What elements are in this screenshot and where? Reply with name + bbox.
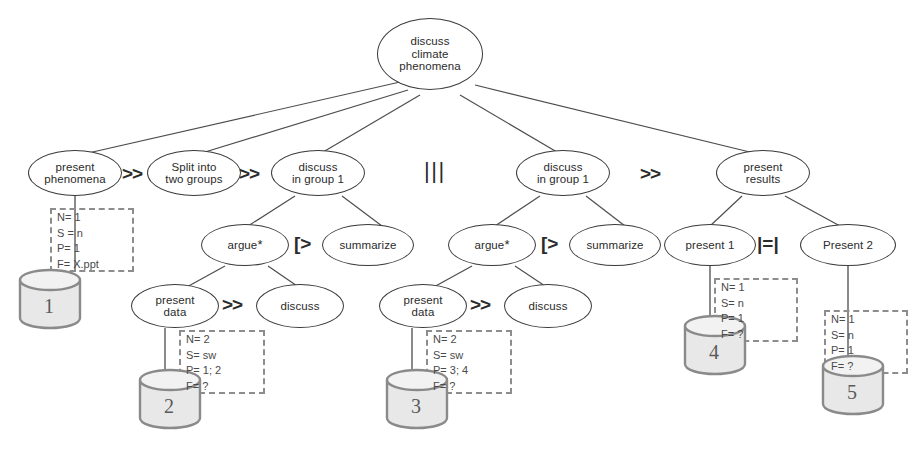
annotation-3-line-n: N= 2 bbox=[433, 332, 468, 348]
node-present-2-label: Present 2 bbox=[823, 239, 873, 252]
node-present-data-left-label: present data bbox=[155, 294, 194, 319]
node-present-phenomena-label: present phenomena bbox=[44, 161, 106, 186]
node-split-groups-label: Split into two groups bbox=[165, 161, 222, 186]
operator-sequence-4: >> bbox=[222, 295, 242, 314]
operator-disabling-right-symbol: [> bbox=[541, 233, 558, 254]
operator-sequence-5: >> bbox=[470, 295, 490, 314]
node-discuss-left[interactable]: discuss bbox=[256, 284, 344, 328]
annotation-1-line-s: S = n bbox=[57, 226, 99, 242]
annotation-5-line-p: P= 1 bbox=[831, 343, 855, 359]
annotation-1: N= 1 S = n P= 1 F= X.ppt bbox=[57, 210, 99, 272]
edge-discuss1b-summarize bbox=[586, 196, 625, 226]
annotation-3-line-s: S= sw bbox=[433, 348, 468, 364]
node-discuss-group-1a[interactable]: discuss in group 1 bbox=[271, 150, 365, 196]
edge-root-present-phenomena bbox=[75, 82, 400, 156]
diagram-canvas: discuss climate phenomena present phenom… bbox=[0, 0, 915, 461]
node-present-data-left[interactable]: present data bbox=[131, 284, 219, 328]
node-present-data-right-label: present data bbox=[403, 294, 442, 319]
annotation-3: N= 2 S= sw P= 3; 4 F= ? bbox=[433, 332, 468, 394]
edge-results-present-2 bbox=[785, 196, 840, 226]
operator-sequence-1-symbol: >> bbox=[122, 163, 142, 184]
node-split-groups[interactable]: Split into two groups bbox=[147, 150, 241, 196]
annotation-2-line-s: S= sw bbox=[186, 348, 221, 364]
node-argue-right-label: argue bbox=[474, 239, 504, 252]
operator-sequence-2-symbol: >> bbox=[239, 163, 259, 184]
operator-sequence-3-symbol: >> bbox=[640, 163, 660, 184]
node-present-1[interactable]: present 1 bbox=[664, 224, 756, 266]
operator-sequence-4-symbol: >> bbox=[222, 294, 242, 315]
edge-discuss1a-summarize-left bbox=[342, 196, 382, 226]
annotation-2: N= 2 S= sw P= 1; 2 F= ? bbox=[186, 332, 221, 394]
node-discuss-right-label: discuss bbox=[528, 300, 567, 313]
node-argue-right[interactable]: argue* bbox=[448, 224, 536, 266]
annotation-4-line-n: N= 1 bbox=[721, 280, 745, 296]
node-root[interactable]: discuss climate phenomena bbox=[377, 18, 483, 90]
operator-concurrent: ||| bbox=[424, 161, 446, 180]
annotation-4-line-f: F= ? bbox=[721, 327, 745, 343]
node-summarize-left-label: summarize bbox=[339, 239, 396, 252]
annotation-1-line-f: F= X.ppt bbox=[57, 257, 99, 273]
node-present-data-right[interactable]: present data bbox=[379, 284, 467, 328]
operator-disabling-left-symbol: [> bbox=[294, 233, 311, 254]
operator-sequence-2: >> bbox=[239, 164, 259, 183]
node-present-phenomena[interactable]: present phenomena bbox=[28, 150, 122, 196]
node-discuss-group-1a-label: discuss in group 1 bbox=[292, 161, 344, 186]
node-discuss-right[interactable]: discuss bbox=[504, 284, 592, 328]
database-cylinder-3-label: 3 bbox=[411, 396, 421, 416]
operator-sequence-1: >> bbox=[122, 164, 142, 183]
node-argue-left[interactable]: argue* bbox=[201, 224, 289, 266]
edge-root-present-results bbox=[475, 85, 762, 155]
database-cylinder-1-label: 1 bbox=[44, 296, 54, 316]
database-cylinder-5-label: 5 bbox=[847, 382, 857, 402]
annotation-4-line-s: S= n bbox=[721, 296, 745, 312]
node-present-results-label: present results bbox=[743, 161, 782, 186]
annotation-5-line-n: N= 1 bbox=[831, 312, 855, 328]
node-summarize-right[interactable]: summarize bbox=[569, 224, 661, 266]
node-root-label: discuss climate phenomena bbox=[399, 35, 461, 73]
node-present-1-label: present 1 bbox=[686, 239, 735, 252]
database-cylinder-4-label: 4 bbox=[709, 342, 719, 362]
annotation-5: N= 1 S= n P= 1 F= ? bbox=[831, 312, 855, 374]
node-present-2[interactable]: Present 2 bbox=[800, 224, 896, 266]
node-argue-left-label: argue bbox=[227, 239, 257, 252]
node-discuss-group-1b[interactable]: discuss in group 1 bbox=[516, 150, 610, 196]
operator-disabling-right: [> bbox=[541, 234, 558, 253]
edge-discuss1a-argue bbox=[248, 196, 295, 226]
operator-sequence-3: >> bbox=[640, 164, 660, 183]
annotation-2-line-f: F= ? bbox=[186, 379, 221, 395]
annotation-5-line-f: F= ? bbox=[831, 359, 855, 375]
operator-order-independent-symbol: |=| bbox=[757, 233, 779, 254]
operator-order-independent: |=| bbox=[757, 234, 779, 253]
annotation-3-line-p: P= 3; 4 bbox=[433, 363, 468, 379]
operator-concurrent-symbol: ||| bbox=[424, 158, 446, 183]
node-discuss-group-1b-label: discuss in group 1 bbox=[537, 161, 589, 186]
annotation-2-line-n: N= 2 bbox=[186, 332, 221, 348]
node-discuss-left-label: discuss bbox=[280, 300, 319, 313]
edge-root-discuss-group-1b bbox=[460, 95, 562, 155]
node-present-results[interactable]: present results bbox=[716, 150, 810, 196]
database-cylinder-2-label: 2 bbox=[164, 396, 174, 416]
operator-disabling-left: [> bbox=[294, 234, 311, 253]
node-summarize-right-label: summarize bbox=[586, 239, 643, 252]
annotation-4-line-p: P= 1 bbox=[721, 311, 745, 327]
annotation-4: N= 1 S= n P= 1 F= ? bbox=[721, 280, 745, 342]
annotation-5-line-s: S= n bbox=[831, 328, 855, 344]
annotation-1-line-p: P= 1 bbox=[57, 241, 99, 257]
edge-discuss1b-argue bbox=[495, 196, 540, 226]
annotation-2-line-p: P= 1; 2 bbox=[186, 363, 221, 379]
edge-root-discuss-group-1a bbox=[318, 95, 420, 155]
node-summarize-left[interactable]: summarize bbox=[322, 224, 414, 266]
annotation-1-line-n: N= 1 bbox=[57, 210, 99, 226]
edge-root-split-groups bbox=[192, 90, 408, 156]
operator-sequence-5-symbol: >> bbox=[470, 294, 490, 315]
edge-results-present-1 bbox=[710, 196, 742, 226]
edge-discuss1a-summarize bbox=[342, 196, 600, 226]
annotation-3-line-f: F= ? bbox=[433, 379, 468, 395]
